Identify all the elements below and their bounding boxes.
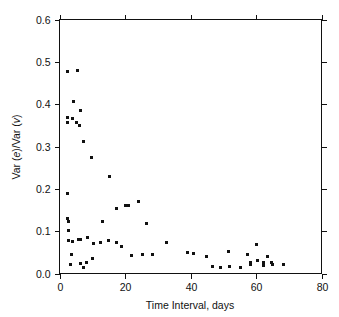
data-point (145, 222, 148, 225)
data-point (92, 242, 95, 245)
data-point (90, 156, 93, 159)
data-point (137, 200, 140, 203)
x-tick-label-0: 0 (58, 281, 64, 293)
data-point (66, 70, 69, 73)
data-point (82, 140, 85, 143)
x-tick-label-20: 20 (120, 281, 132, 293)
data-point (205, 255, 208, 258)
data-point (124, 204, 127, 207)
data-point (82, 266, 85, 269)
data-point (227, 250, 230, 253)
data-point (66, 116, 69, 119)
data-point (141, 253, 144, 256)
data-point (66, 121, 69, 124)
y-tick-label-0.0: 0.0 (36, 268, 51, 280)
plot-svg: 020406080 0.00.10.20.30.40.50.6 Time Int… (0, 0, 339, 317)
data-point (249, 263, 252, 266)
y-axis-title-suffix: ) (10, 115, 22, 119)
y-axis-title-prefix: Var ( (10, 157, 22, 179)
data-point (239, 266, 242, 269)
data-point (66, 217, 69, 220)
data-point (78, 124, 81, 127)
x-tick-label-80: 80 (317, 281, 329, 293)
data-point (262, 261, 265, 264)
svg-text:Var (e)/Var (v): Var (e)/Var (v) (10, 115, 22, 180)
data-point (165, 241, 168, 244)
data-point (75, 121, 78, 124)
data-point (67, 220, 70, 223)
x-tick-label-40: 40 (186, 281, 198, 293)
data-point (76, 69, 79, 72)
data-point (67, 229, 70, 232)
data-point (228, 265, 231, 268)
y-axis-ticks (55, 21, 327, 275)
data-point (70, 253, 73, 256)
data-point (99, 241, 102, 244)
y-axis-tick-labels: 0.00.10.20.30.40.50.6 (36, 14, 51, 280)
x-axis-ticks (61, 15, 323, 279)
data-point (266, 255, 269, 258)
data-point (69, 263, 72, 266)
x-axis-tick-labels: 020406080 (58, 281, 329, 293)
data-point (186, 251, 189, 254)
data-point (108, 175, 111, 178)
plot-frame (59, 19, 322, 274)
data-point (91, 257, 94, 260)
data-point (67, 239, 70, 242)
data-point (282, 263, 285, 266)
data-point (151, 253, 154, 256)
y-tick-label-0.5: 0.5 (36, 56, 51, 68)
data-point (262, 264, 265, 267)
data-point (66, 192, 69, 195)
data-point (85, 261, 88, 264)
data-point (255, 243, 258, 246)
data-point (271, 263, 274, 266)
data-point (71, 117, 74, 120)
y-tick-label-0.4: 0.4 (36, 98, 51, 110)
x-axis-title: Time Interval, days (146, 299, 234, 311)
data-point (246, 253, 249, 256)
y-axis-title-middle: )/Var ( (10, 123, 22, 152)
y-tick-label-0.1: 0.1 (36, 225, 51, 237)
data-point (115, 241, 118, 244)
data-point (72, 100, 75, 103)
data-point (115, 207, 118, 210)
data-point (256, 259, 259, 262)
data-point (107, 239, 110, 242)
data-point (120, 245, 123, 248)
data-point (71, 240, 74, 243)
data-point (219, 266, 222, 269)
scatter-plot-figure: 020406080 0.00.10.20.30.40.50.6 Time Int… (0, 0, 339, 317)
data-point (130, 254, 133, 257)
x-tick-label-60: 60 (251, 281, 263, 293)
data-point (211, 265, 214, 268)
y-axis-title: Var (e)/Var (v) (10, 115, 22, 180)
data-point (79, 238, 82, 241)
data-point (86, 236, 89, 239)
data-point (101, 220, 104, 223)
data-point-series (66, 69, 285, 269)
y-tick-label-0.6: 0.6 (36, 14, 51, 26)
data-point (79, 262, 82, 265)
data-point (79, 109, 82, 112)
data-point (127, 204, 130, 207)
data-point (192, 252, 195, 255)
y-tick-label-0.2: 0.2 (36, 183, 51, 195)
y-tick-label-0.3: 0.3 (36, 141, 51, 153)
